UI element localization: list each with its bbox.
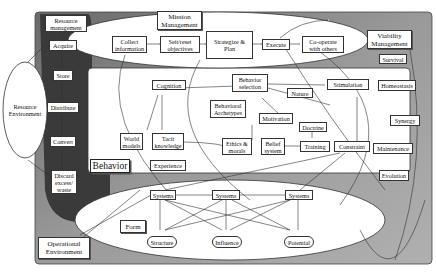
resource-discard: Discard excess/ waste: [51, 170, 77, 194]
resource-acquire: Acquire: [49, 40, 77, 51]
behavior-belief-system: Belief system: [261, 138, 285, 155]
behavior-nature: Nature: [287, 88, 313, 98]
resource-convert: Convert: [50, 136, 76, 147]
system-diagram: Resource Environment Operational Environ…: [0, 0, 436, 273]
behavior-tacit-knowledge: Tacit knowledge: [152, 133, 184, 150]
behavioral-archetypes: Behavioral Archetypes: [210, 100, 246, 118]
resource-environment-label: Resource Environment: [5, 100, 45, 120]
form-influence: Influence: [212, 236, 242, 248]
form-systems-2: Systems: [212, 190, 240, 200]
viability-maintenance: Maintenance: [373, 143, 413, 154]
behavior-ethics-morals: Ethics & morals: [222, 138, 252, 155]
behavior-world-models: World models: [120, 133, 143, 150]
form-potential: Potential: [284, 236, 314, 248]
form-systems-3: Systems: [285, 190, 313, 200]
resource-distribute: Distribute: [47, 102, 79, 113]
mission-collect-information: Collect information: [112, 36, 147, 53]
viability-evolution: Evolution: [379, 170, 409, 181]
mission-cooperate: Co-operate with others: [302, 36, 344, 53]
form-systems-1: Systems: [150, 190, 176, 200]
behavior-training: Training: [300, 141, 330, 152]
viability-survival: Survival: [379, 54, 407, 64]
resource-store: Store: [53, 70, 73, 81]
behavior-stimulation: Stimulation: [327, 79, 369, 90]
resource-management-label: Resource management: [45, 15, 87, 32]
behavior-cognition: Cognition: [152, 80, 186, 90]
viability-synergy: Synergy: [390, 115, 420, 126]
viability-homeostasis: Homeostasis: [378, 80, 416, 91]
mission-strategize-plan: Strategize & Plan: [206, 31, 253, 59]
behavior-constraint: Constraint: [334, 141, 370, 152]
form-structure: Structure: [147, 236, 177, 248]
mission-execute: Execute: [262, 39, 290, 50]
behavior-motivation: Motivation: [259, 113, 293, 124]
mission-management-label: Mission Management: [157, 11, 202, 30]
viability-management-label: Viability Management: [367, 30, 412, 49]
behavior-experience: Experience: [150, 160, 186, 171]
form-label: Form: [120, 220, 146, 233]
mission-set-objectives: Seit/reset objectives: [160, 36, 200, 53]
operational-environment-label: Operational Environment: [38, 237, 90, 259]
behavior-selection: Behavior selection: [232, 74, 268, 92]
behavior-label: Behavior: [90, 159, 130, 173]
behavior-doctrine: Doctrine: [299, 122, 327, 132]
